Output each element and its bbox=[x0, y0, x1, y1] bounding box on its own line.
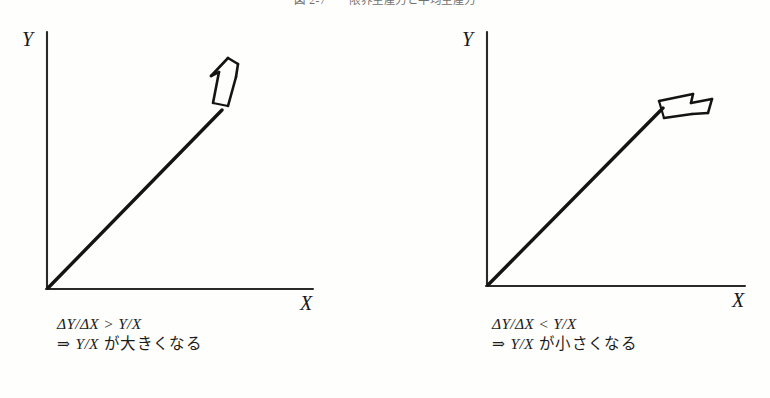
steep-up-arrow-icon bbox=[211, 58, 238, 106]
right-ratio-symbol: Y/X bbox=[511, 335, 534, 352]
right-formula-block: ΔY/ΔX < Y/X ⇒ Y/X が小さくなる bbox=[492, 314, 637, 355]
left-formula-block: ΔY/ΔX > Y/X ⇒ Y/X が大きくなる bbox=[57, 314, 202, 355]
left-formula-conclusion: ⇒ Y/X が大きくなる bbox=[57, 334, 202, 354]
right-ray-from-origin bbox=[488, 108, 663, 285]
shallow-right-arrow-icon bbox=[659, 94, 712, 118]
right-x-axis-label: X bbox=[732, 289, 744, 312]
left-conclusion-text: が大きくなる bbox=[99, 335, 202, 353]
left-ray-from-origin bbox=[48, 110, 222, 288]
right-implies-symbol: ⇒ bbox=[492, 335, 511, 353]
right-diagram-panel: Y X ΔY/ΔX < Y/X ⇒ Y/X が小さくなる bbox=[385, 0, 770, 398]
right-formula-inequality: ΔY/ΔX < Y/X bbox=[492, 314, 637, 334]
left-implies-symbol: ⇒ bbox=[57, 335, 76, 353]
left-formula-inequality: ΔY/ΔX > Y/X bbox=[57, 314, 202, 334]
right-conclusion-text: が小さくなる bbox=[534, 335, 637, 353]
left-x-axis-label: X bbox=[300, 292, 312, 315]
left-ratio-symbol: Y/X bbox=[76, 335, 99, 352]
left-diagram-panel: Y X ΔY/ΔX > Y/X ⇒ Y/X が大きくなる bbox=[0, 0, 385, 398]
right-y-axis-label: Y bbox=[462, 28, 473, 51]
right-formula-conclusion: ⇒ Y/X が小さくなる bbox=[492, 334, 637, 354]
left-y-axis-label: Y bbox=[22, 28, 33, 51]
